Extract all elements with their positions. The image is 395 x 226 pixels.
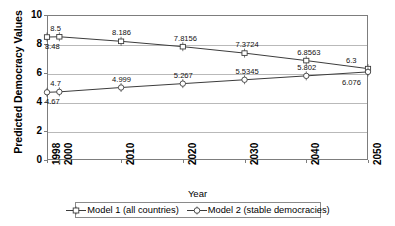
data-point-circle-icon [365,69,370,74]
chart-legend: Model 1 (all countries) Model 2 (stable … [75,202,321,218]
data-point-label: 4.7 [50,79,61,88]
x-tick-label: 2040 [310,143,321,165]
democracy-projection-chart: Predicted Democracy Values 0246810 19982… [0,0,395,226]
data-point-circle-icon [180,81,185,86]
data-point-label: 5.5345 [236,67,259,76]
x-tick-mark [306,160,307,163]
x-tick-mark [183,160,184,163]
x-tick-label: 1998 [51,143,62,165]
x-tick-mark [47,160,48,163]
x-tick-label: 2020 [187,143,198,165]
x-tick-mark [368,160,369,163]
y-tick-label: 0 [20,154,42,165]
y-tick-label: 6 [20,67,42,78]
data-point-circle-icon [242,77,247,82]
legend-label-model-1: Model 1 (all countries) [87,205,178,215]
x-tick-mark [121,160,122,163]
data-point-circle-icon [57,89,62,94]
legend-marker-circle-icon [187,205,207,216]
y-tick-label: 10 [20,9,42,20]
data-point-label: 5.802 [297,63,316,72]
data-point-label: 8.48 [45,42,60,51]
x-tick-label: 2030 [249,143,260,165]
data-point-square-icon [180,44,185,49]
y-tick-label: 2 [20,125,42,136]
x-tick-mark [245,160,246,163]
data-point-label: 6.8563 [297,48,320,57]
data-point-label: 6.076 [342,78,361,87]
data-point-label: 8.5 [50,24,61,33]
x-tick-label: 2000 [63,143,74,165]
series-line [47,72,368,92]
y-tick-label: 4 [20,96,42,107]
legend-item-model-2: Model 2 (stable democracies) [187,205,330,216]
x-tick-label: 2010 [125,143,136,165]
x-tick-label: 2050 [372,143,383,165]
data-point-label: 8.186 [112,28,131,37]
y-tick-label: 8 [20,38,42,49]
legend-marker-square-icon [66,205,86,216]
data-point-circle-icon [44,90,49,95]
data-point-label: 4.999 [112,75,131,84]
data-point-circle-icon [118,85,123,90]
data-point-circle-icon [304,73,309,78]
x-axis-title: Year [0,188,395,199]
data-point-label: 4.67 [45,97,60,106]
data-point-square-icon [44,35,49,40]
data-point-label: 5.267 [174,71,193,80]
data-point-label: 7.3724 [236,40,259,49]
legend-item-model-1: Model 1 (all countries) [66,205,178,216]
data-point-label: 7.8156 [174,34,197,43]
data-point-square-icon [242,51,247,56]
y-tick-mark [44,131,47,132]
y-tick-mark [44,73,47,74]
legend-label-model-2: Model 2 (stable democracies) [208,205,330,215]
data-point-square-icon [118,39,123,44]
x-tick-mark [59,160,60,163]
y-tick-mark [44,15,47,16]
data-point-label: 6.3 [346,56,357,65]
data-point-square-icon [57,34,62,39]
